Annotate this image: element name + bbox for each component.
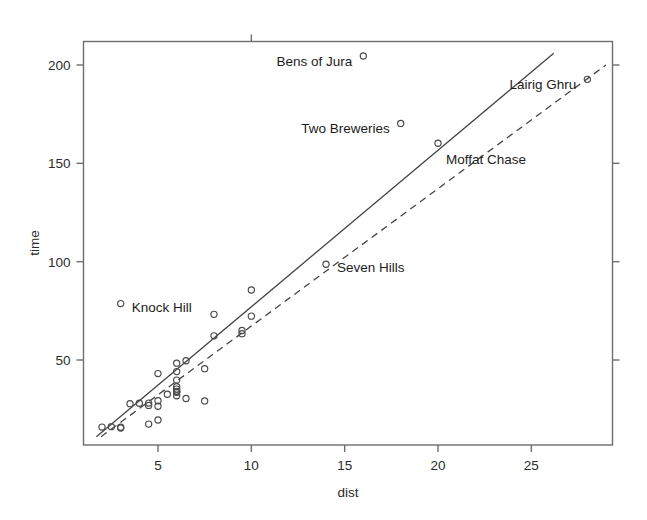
data-point [174, 360, 180, 366]
point-annotation-label: Two Breweries [301, 121, 390, 136]
y-tick-label: 150 [48, 156, 71, 171]
point-annotation-label: Seven Hills [337, 260, 405, 275]
data-point [398, 120, 404, 126]
y-axis-title: time [27, 230, 42, 256]
data-point [183, 395, 189, 401]
data-point [202, 398, 208, 404]
y-tick-label: 100 [48, 255, 71, 270]
data-point [118, 300, 124, 306]
point-annotation-label: Moffat Chase [446, 152, 526, 167]
scatter-plot: 510152025 50100150200 Bens of JuraLairig… [0, 0, 647, 520]
x-tick-label: 25 [524, 458, 539, 473]
data-point [164, 391, 170, 397]
x-tick-label: 15 [337, 458, 352, 473]
point-annotations: Bens of JuraLairig GhruTwo BreweriesMoff… [132, 54, 577, 315]
y-tick-label: 50 [55, 353, 70, 368]
data-point [248, 287, 254, 293]
data-point [155, 370, 161, 376]
y-axis-ticks: 50100150200 [48, 58, 620, 368]
x-tick-label: 20 [430, 458, 445, 473]
figure-canvas: 510152025 50100150200 Bens of JuraLairig… [0, 0, 647, 520]
data-point [360, 53, 366, 59]
data-point [127, 401, 133, 407]
x-axis-title: dist [337, 485, 358, 500]
x-tick-label: 5 [154, 458, 162, 473]
fit-lines [96, 53, 606, 437]
plot-frame [84, 42, 613, 446]
data-point [248, 313, 254, 319]
point-annotation-label: Bens of Jura [277, 54, 353, 69]
data-point [211, 311, 217, 317]
y-tick-label: 200 [48, 58, 71, 73]
x-tick-label: 10 [244, 458, 259, 473]
x-axis-ticks: 510152025 [154, 35, 539, 474]
data-point [146, 421, 152, 427]
data-point [202, 366, 208, 372]
point-annotation-label: Lairig Ghru [510, 77, 577, 92]
data-points [99, 53, 591, 431]
data-point [155, 417, 161, 423]
data-point [99, 424, 105, 430]
point-annotation-label: Knock Hill [132, 300, 192, 315]
data-point [435, 140, 441, 146]
data-point [323, 261, 329, 267]
regression-line-solid [96, 53, 553, 437]
